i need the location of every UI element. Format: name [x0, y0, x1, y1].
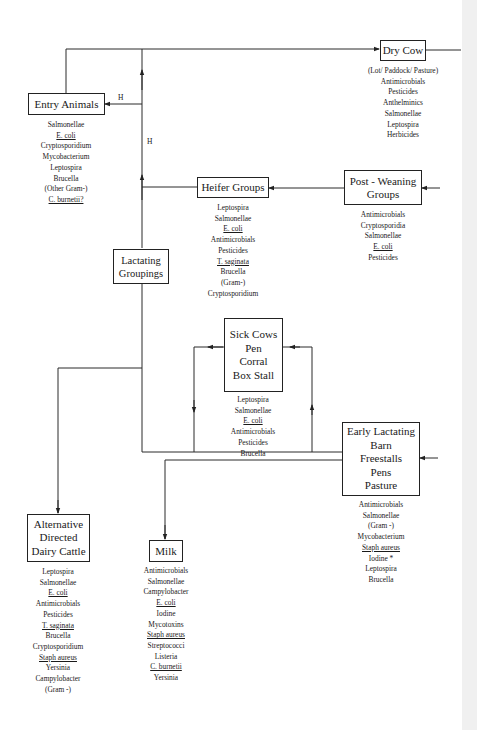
list-heifer-groups: Leptospira Salmonellae E. coli Antimicro… [183, 203, 283, 299]
list-item: Antimicrobials [8, 599, 108, 610]
list-item: E. coli [333, 242, 433, 253]
list-item: (Other Gram-) [16, 184, 116, 195]
list-item: Anthelminics [353, 98, 453, 109]
node-title: Dairy Cattle [31, 545, 85, 559]
list-item: Staph aureus [331, 543, 431, 554]
list-item: (Gram -) [331, 521, 431, 532]
node-title: Heifer Groups [201, 181, 264, 194]
node-title: Pens [371, 466, 392, 480]
node-early-lactating: Early Lactating Barn Freestalls Pens Pas… [342, 422, 420, 496]
list-item: Mycobacterium [331, 532, 431, 543]
node-title: Early Lactating [347, 425, 415, 439]
list-item: Campylobacter [8, 674, 108, 685]
node-title: Directed [40, 531, 78, 545]
node-title: Freestalls [360, 452, 402, 466]
list-item: Herbicides [353, 130, 453, 141]
node-title: Groups [367, 188, 399, 201]
list-item: E. coli [203, 416, 303, 427]
list-item: Listeria [116, 652, 216, 663]
list-item: (Lot/ Paddock/ Pasture) [353, 66, 453, 77]
list-item: E. coli [116, 598, 216, 609]
list-item: Brucella [203, 449, 303, 460]
node-title: Post - Weaning [350, 175, 417, 188]
list-item: C. burnetii? [16, 195, 116, 206]
list-item: Antimicrobials [333, 210, 433, 221]
list-post-weaning: Antimicrobials Cryptosporidia Salmonella… [333, 210, 433, 264]
list-item: Leptospira [353, 120, 453, 131]
list-item: Antimicrobials [116, 566, 216, 577]
list-item: Cryptosporidia [333, 221, 433, 232]
node-title: Alternative [34, 518, 83, 532]
list-item: Yersinia [8, 663, 108, 674]
list-item: Iodine [116, 609, 216, 620]
list-item: Pesticides [8, 610, 108, 621]
node-title: Sick Cows [230, 328, 277, 342]
edge-entry-to-top [66, 49, 142, 93]
list-item: Mycobacterium [16, 152, 116, 163]
list-item: T. saginata [8, 621, 108, 632]
node-post-weaning-groups: Post - Weaning Groups [344, 170, 422, 205]
list-item: Salmonellae [16, 120, 116, 131]
node-title: Box Stall [233, 369, 274, 383]
node-dry-cow: Dry Cow [380, 40, 426, 61]
list-item: Cryptosporidium [16, 141, 116, 152]
node-title: Dry Cow [383, 44, 424, 57]
node-title: Lactating [121, 254, 161, 267]
list-item: Brucella [16, 174, 116, 185]
list-item: Pesticides [183, 246, 283, 257]
list-item: E. coli [8, 588, 108, 599]
list-item: Pesticides [333, 253, 433, 264]
list-alternative: Leptospira Salmonellae E. coli Antimicro… [8, 567, 108, 695]
list-item: Antimicrobials [203, 427, 303, 438]
list-item: E. coli [16, 131, 116, 142]
edge-label-h-entry: H [118, 93, 123, 102]
node-heifer-groups: Heifer Groups [197, 177, 269, 198]
list-item: Salmonellae [331, 511, 431, 522]
list-item: Brucella [8, 631, 108, 642]
list-item: Cryptosporidium [8, 642, 108, 653]
edge-to-milk [165, 460, 342, 539]
node-title: Barn [370, 439, 391, 453]
list-item: Streptococci [116, 641, 216, 652]
list-item: (Gram -) [8, 685, 108, 696]
list-item: C. burnetii [116, 662, 216, 673]
list-entry-animals: Salmonellae E. coli Cryptosporidium Myco… [16, 120, 116, 206]
edge-to-alternative [58, 368, 142, 513]
node-title: Corral [239, 355, 267, 369]
list-item: Salmonellae [183, 214, 283, 225]
node-entry-animals: Entry Animals [28, 93, 105, 115]
node-milk: Milk [149, 540, 183, 562]
list-item: Leptospira [183, 203, 283, 214]
node-title: Milk [155, 545, 176, 558]
list-item: E. coli [183, 224, 283, 235]
node-title: Groupings [119, 267, 163, 280]
list-milk: Antimicrobials Salmonellae Campylobacter… [116, 566, 216, 684]
edge-label-h-trunk: H [147, 137, 152, 146]
list-item: Leptospira [8, 567, 108, 578]
list-item: Yersinia [116, 673, 216, 684]
node-title: Pen [245, 342, 262, 356]
list-early-lactating: Antimicrobials Salmonellae (Gram -) Myco… [331, 500, 431, 586]
list-item: Staph aureus [8, 653, 108, 664]
list-item: Leptospira [16, 163, 116, 174]
list-item: Pesticides [353, 87, 453, 98]
list-item: Salmonellae [116, 577, 216, 588]
list-item: Brucella [183, 267, 283, 278]
list-item: Leptospira [203, 395, 303, 406]
list-item: Campylobacter [116, 587, 216, 598]
list-item: Antimicrobials [353, 77, 453, 88]
node-alternative-directed-dairy-cattle: Alternative Directed Dairy Cattle [27, 514, 90, 562]
list-item: Pesticides [203, 438, 303, 449]
node-lactating-groupings: Lactating Groupings [113, 249, 169, 284]
list-item: Cryptosporidium [183, 289, 283, 300]
list-item: T. saginata [183, 257, 283, 268]
list-item: Antimicrobials [183, 235, 283, 246]
list-item: Salmonellae [203, 406, 303, 417]
list-item: Iodine * [331, 554, 431, 565]
list-item: Brucella [331, 575, 431, 586]
list-item: Mycotoxins [116, 620, 216, 631]
node-title: Pasture [365, 479, 397, 493]
list-item: Salmonellae [8, 578, 108, 589]
list-item: Salmonellae [333, 231, 433, 242]
list-item: Salmonellae [353, 109, 453, 120]
